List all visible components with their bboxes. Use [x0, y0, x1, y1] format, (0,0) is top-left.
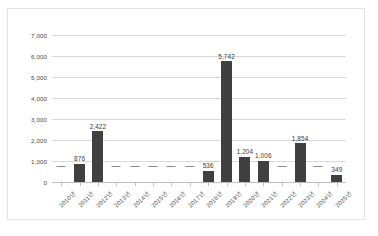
xlabel-slot: 2021년 [254, 187, 272, 221]
zero-value-dash [277, 166, 286, 167]
xtick-mark [153, 182, 154, 186]
xlabel-slot: 2020년 [236, 187, 254, 221]
plot-area: 7,000 6,000 5,000 4,000 3,000 2,000 1,00… [52, 35, 346, 182]
ytick-label-7000: 7,000 [31, 32, 47, 39]
bar-slot: 536 [199, 35, 217, 182]
xlabel-slot: 2019년 [217, 187, 235, 221]
xtick-mark [171, 182, 172, 186]
ytick-label-5000: 5,000 [31, 73, 47, 80]
bar[interactable]: 1,204 [239, 157, 250, 182]
xtick-mark [282, 182, 283, 186]
bar-slot [107, 35, 125, 182]
bar-slot [273, 35, 291, 182]
xlabel-slot: 2025년 [328, 187, 346, 221]
xtick-mark [245, 182, 246, 186]
bar[interactable]: 5,742 [221, 61, 232, 182]
zero-value-dash [149, 166, 158, 167]
ytick-label-4000: 4,000 [31, 94, 47, 101]
xlabel-slot: 2016년 [162, 187, 180, 221]
zero-value-dash [314, 166, 323, 167]
bar-value-label: 2,422 [90, 123, 107, 130]
bar-value-label: 5,742 [218, 53, 235, 60]
xtick-mark [337, 182, 338, 186]
bar-value-label: 1,204 [237, 148, 254, 155]
bar-value-label: 876 [74, 155, 85, 162]
xtick-mark [208, 182, 209, 186]
bar-value-label: 536 [203, 162, 214, 169]
xtick-mark [61, 182, 62, 186]
xlabel-slot: 2011년 [70, 187, 88, 221]
zero-value-dash [57, 166, 66, 167]
zero-value-dash [167, 166, 176, 167]
ytick-label-1000: 1,000 [31, 157, 47, 164]
bar-value-label: 349 [331, 166, 342, 173]
xtick-mark [227, 182, 228, 186]
xlabel-slot: 2015년 [144, 187, 162, 221]
xlabel-slot: 2014년 [126, 187, 144, 221]
xtick-mark [318, 182, 319, 186]
ytick-label-0: 0 [43, 179, 47, 186]
ytick-label-3000: 3,000 [31, 115, 47, 122]
bar-slot [162, 35, 180, 182]
xlabel-slot: 2018년 [199, 187, 217, 221]
bar-slot: 2,422 [89, 35, 107, 182]
zero-value-dash [112, 166, 121, 167]
xtick-label: 2025년 [333, 189, 353, 209]
bar-slot: 1,204 [236, 35, 254, 182]
bar-slot [144, 35, 162, 182]
bar[interactable]: 536 [203, 171, 214, 182]
bar[interactable]: 1,854 [295, 143, 306, 182]
xtick-mark [300, 182, 301, 186]
xtick-mark [116, 182, 117, 186]
chart-frame: 7,000 6,000 5,000 4,000 3,000 2,000 1,00… [7, 8, 365, 220]
xlabel-slot: 2022년 [273, 187, 291, 221]
bar-slot: 5,742 [217, 35, 235, 182]
bar-slot: 1,854 [291, 35, 309, 182]
xtick-mark [80, 182, 81, 186]
zero-value-dash [130, 166, 139, 167]
bar-slot: 876 [70, 35, 88, 182]
xtick-mark [263, 182, 264, 186]
bar-value-label: 1,006 [255, 152, 272, 159]
xlabel-slot: 2024년 [309, 187, 327, 221]
bar-slot: 1,006 [254, 35, 272, 182]
zero-value-dash [185, 166, 194, 167]
bar-slot [309, 35, 327, 182]
bar[interactable]: 1,006 [258, 161, 269, 182]
xlabel-slot: 2010년 [52, 187, 70, 221]
xlabel-slot: 2012년 [89, 187, 107, 221]
xtick-mark [190, 182, 191, 186]
bar-value-label: 1,854 [292, 135, 309, 142]
x-axis-labels: 2010년2011년2012년2013년2014년2015년2016년2017년… [52, 187, 346, 221]
bar-series: 8762,4225365,7421,2041,0061,854349 [52, 35, 346, 182]
xtick-mark [135, 182, 136, 186]
ytick-label-6000: 6,000 [31, 52, 47, 59]
bar-slot [52, 35, 70, 182]
xtick-mark [98, 182, 99, 186]
xlabel-slot: 2013년 [107, 187, 125, 221]
bar[interactable]: 349 [331, 175, 342, 182]
bar-slot [126, 35, 144, 182]
bar[interactable]: 876 [74, 164, 85, 182]
xlabel-slot: 2023년 [291, 187, 309, 221]
bar-slot: 349 [328, 35, 346, 182]
bar-slot [181, 35, 199, 182]
xlabel-slot: 2017년 [181, 187, 199, 221]
ytick-label-2000: 2,000 [31, 136, 47, 143]
bar[interactable]: 2,422 [92, 131, 103, 182]
